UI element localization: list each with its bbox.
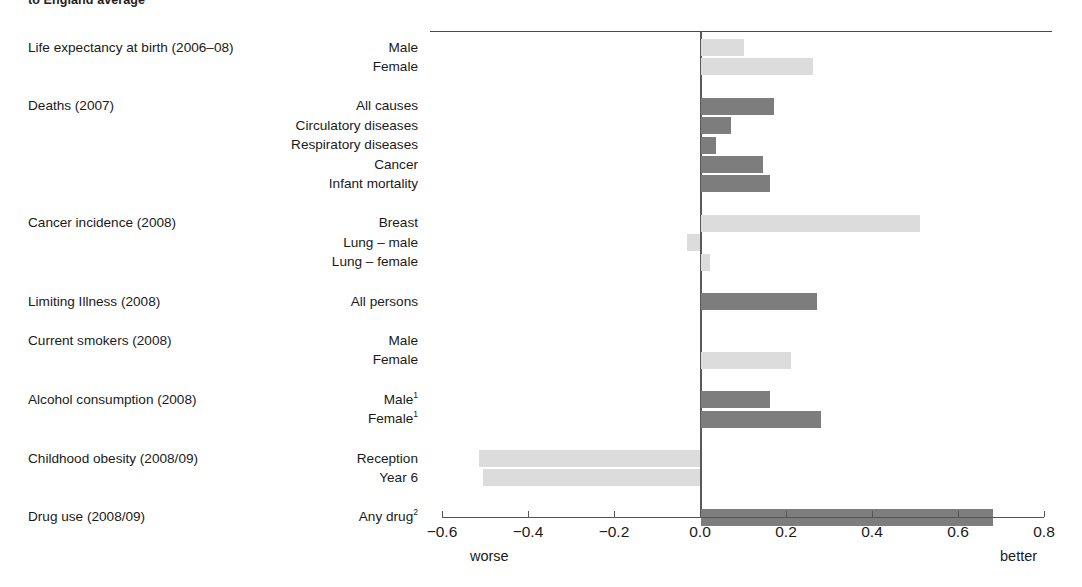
bar xyxy=(701,391,770,408)
bar xyxy=(701,352,791,369)
bar xyxy=(701,215,920,232)
x-axis-tick-label: 0.2 xyxy=(775,523,797,541)
group-title: Drug use (2008/09) xyxy=(28,510,145,524)
x-axis-tick xyxy=(700,511,701,517)
group-title: Current smokers (2008) xyxy=(28,334,172,348)
row-label: Respiratory diseases xyxy=(291,138,418,152)
x-axis-tick xyxy=(614,511,615,517)
bar xyxy=(701,411,821,428)
x-axis-line xyxy=(442,517,1044,518)
plot-top-border xyxy=(430,31,1052,32)
row-label: Female xyxy=(373,60,418,74)
comparison-bar-chart: to England average Life expectancy at bi… xyxy=(0,0,1082,587)
row-label: Female1 xyxy=(368,412,418,426)
row-label: Male xyxy=(389,334,418,348)
row-label: Lung – male xyxy=(343,236,418,250)
x-axis-tick-label: 0.8 xyxy=(1033,523,1055,541)
row-label: Cancer xyxy=(374,158,418,172)
bar xyxy=(701,39,744,56)
row-label: Circulatory diseases xyxy=(296,119,418,133)
x-axis-tick-label: −0.4 xyxy=(513,523,544,541)
group-title: Cancer incidence (2008) xyxy=(28,216,176,230)
row-label: Year 6 xyxy=(379,471,418,485)
row-label: Breast xyxy=(379,216,418,230)
row-label-column: Life expectancy at birth (2006–08)MaleFe… xyxy=(0,0,430,520)
group-title: Life expectancy at birth (2006–08) xyxy=(28,41,234,55)
row-label: Infant mortality xyxy=(329,177,418,191)
footnote-marker: 1 xyxy=(413,390,418,400)
bar xyxy=(701,293,817,310)
row-label: All causes xyxy=(356,99,418,113)
bar xyxy=(701,137,716,154)
bar xyxy=(701,58,813,75)
x-axis-tick-label: 0.6 xyxy=(947,523,969,541)
axis-label-worse: worse xyxy=(470,548,509,564)
bar xyxy=(701,156,763,173)
plot-area: −0.6−0.4−0.20.00.20.40.60.8worsebetter xyxy=(430,0,1082,587)
bar xyxy=(701,98,774,115)
axis-label-better: better xyxy=(1000,548,1037,564)
x-axis-tick xyxy=(442,511,443,517)
bar xyxy=(479,450,700,467)
row-label: Male xyxy=(389,41,418,55)
footnote-marker: 1 xyxy=(413,410,418,420)
bar xyxy=(701,254,710,271)
x-axis-tick xyxy=(958,511,959,517)
group-title: Deaths (2007) xyxy=(28,99,114,113)
footnote-marker: 2 xyxy=(413,508,418,518)
x-axis-tick xyxy=(786,511,787,517)
group-title: Alcohol consumption (2008) xyxy=(28,393,197,407)
x-axis-tick xyxy=(1044,511,1045,517)
group-title: Limiting Illness (2008) xyxy=(28,295,160,309)
x-axis-tick-label: 0.0 xyxy=(689,523,711,541)
row-label: Female xyxy=(373,353,418,367)
row-label: Any drug2 xyxy=(359,510,418,524)
x-axis-tick-label: −0.2 xyxy=(599,523,630,541)
row-label: Lung – female xyxy=(332,255,418,269)
bar xyxy=(483,469,700,486)
x-axis-tick-label: 0.4 xyxy=(861,523,883,541)
x-axis-tick xyxy=(528,511,529,517)
row-label: Male1 xyxy=(384,393,418,407)
bar xyxy=(687,234,700,251)
x-axis-tick xyxy=(872,511,873,517)
bar xyxy=(701,117,731,134)
row-label: Reception xyxy=(357,452,418,466)
group-title: Childhood obesity (2008/09) xyxy=(28,452,198,466)
bar xyxy=(701,175,770,192)
row-label: All persons xyxy=(351,295,418,309)
x-axis-tick-label: −0.6 xyxy=(427,523,458,541)
